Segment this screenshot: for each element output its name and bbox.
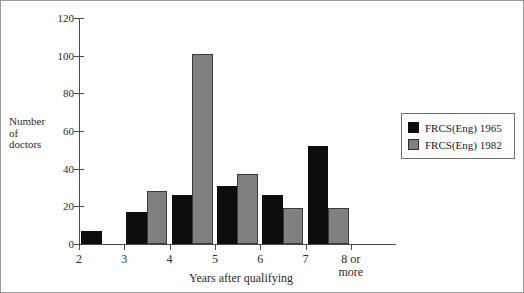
- bar: [283, 208, 304, 244]
- bar: [217, 186, 238, 244]
- x-axis-line: [79, 244, 396, 245]
- y-tick-mark: [74, 131, 84, 132]
- x-tick-label-line: 2: [59, 253, 99, 266]
- x-tick-label-line: 5: [195, 253, 235, 266]
- y-tick-mark: [74, 18, 84, 19]
- y-tick-label: 40: [48, 164, 74, 175]
- x-tick-label-line: 3: [104, 253, 144, 266]
- y-axis-title-line: doctors: [9, 139, 73, 151]
- x-tick-mark: [124, 244, 125, 250]
- gray-swatch-icon: [408, 139, 419, 150]
- x-tick-mark: [306, 244, 307, 250]
- bar: [262, 195, 283, 244]
- chart-figure: 020406080100120 2345678 ormore Numberofd…: [0, 0, 524, 293]
- legend-item-1965: FRCS(Eng) 1965: [408, 119, 508, 136]
- y-tick-label-wrap: 0: [43, 239, 74, 250]
- y-tick-label-wrap: 80: [43, 88, 74, 99]
- x-tick-label: 5: [195, 253, 235, 266]
- bar: [172, 195, 193, 244]
- y-tick-mark: [74, 169, 84, 170]
- x-tick-mark: [260, 244, 261, 250]
- x-tick-label-line: 6: [240, 253, 280, 266]
- x-tick-mark: [215, 244, 216, 250]
- bar: [237, 174, 258, 244]
- y-tick-label-wrap: 120: [43, 13, 74, 24]
- x-tick-label: 3: [104, 253, 144, 266]
- legend-item-1982: FRCS(Eng) 1982: [408, 136, 508, 153]
- bar: [126, 212, 147, 244]
- legend-label-1982: FRCS(Eng) 1982: [425, 139, 502, 151]
- y-tick-label-wrap: 100: [43, 51, 74, 62]
- y-tick-label: 100: [48, 51, 74, 62]
- legend-label-1965: FRCS(Eng) 1965: [425, 122, 502, 134]
- y-tick-mark: [74, 93, 84, 94]
- chart-legend: FRCS(Eng) 1965 FRCS(Eng) 1982: [401, 113, 515, 159]
- x-axis-title: Years after qualifying: [121, 272, 361, 285]
- x-tick-label-line: 4: [150, 253, 190, 266]
- y-tick-label-wrap: 40: [43, 164, 74, 175]
- y-tick-label-wrap: 20: [43, 201, 74, 212]
- y-axis-title-line: Number: [9, 116, 73, 128]
- x-tick-mark: [79, 244, 80, 250]
- bar: [81, 231, 102, 244]
- bar: [147, 191, 168, 244]
- x-tick-mark: [351, 244, 352, 250]
- y-tick-mark: [74, 206, 84, 207]
- bar: [328, 208, 349, 244]
- y-tick-label: 20: [48, 201, 74, 212]
- x-tick-label: 7: [286, 253, 326, 266]
- y-tick-label: 120: [48, 13, 74, 24]
- y-tick-label: 0: [48, 239, 74, 250]
- x-tick-label: 2: [59, 253, 99, 266]
- bar: [192, 54, 213, 244]
- x-tick-mark: [170, 244, 171, 250]
- x-tick-label: 4: [150, 253, 190, 266]
- y-tick-label: 80: [48, 88, 74, 99]
- y-axis-title: Numberofdoctors: [9, 116, 73, 151]
- black-swatch-icon: [408, 122, 419, 133]
- x-tick-label: 6: [240, 253, 280, 266]
- x-tick-label-line: 7: [286, 253, 326, 266]
- y-tick-mark: [74, 56, 84, 57]
- bar: [308, 146, 329, 244]
